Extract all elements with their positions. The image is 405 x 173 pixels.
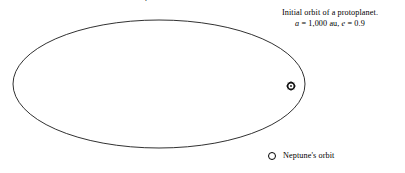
orbit-diagram-figure: p Initial orbit of a protoplanet. a = 1,…: [0, 0, 405, 173]
neptune-orbit-marker-icon: [286, 81, 295, 90]
protoplanet-orbit-ellipse: [13, 20, 305, 148]
orbit-annotation-line1: Initial orbit of a protoplanet.: [258, 8, 402, 18]
eccentricity-value: = 0.9: [345, 19, 365, 28]
orbit-annotation-line2: a = 1,000 au, e = 0.9: [258, 19, 402, 29]
legend-open-circle-icon: [268, 152, 276, 160]
legend-item-label-neptunes-orbit: Neptune's orbit: [283, 151, 334, 160]
orbit-annotation: Initial orbit of a protoplanet. a = 1,00…: [258, 8, 402, 28]
semimajor-axis-value: = 1,000 au,: [299, 19, 341, 28]
legend: Neptune's orbit: [268, 151, 334, 160]
